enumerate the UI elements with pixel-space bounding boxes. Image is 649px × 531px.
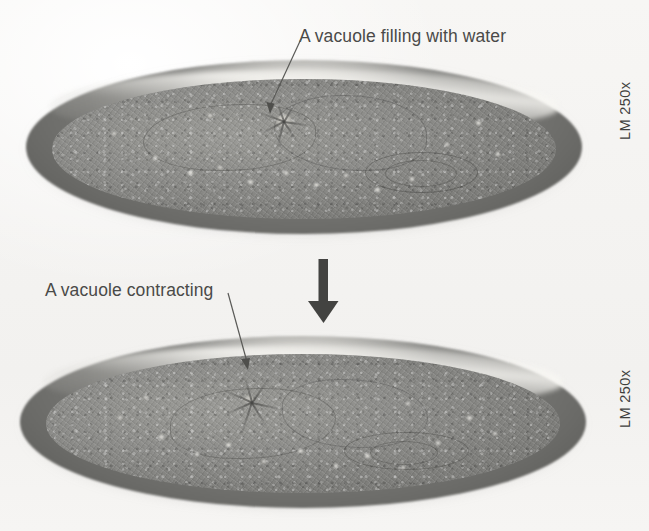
annotation-vacuole-filling: A vacuole filling with water xyxy=(299,26,506,47)
cytoplasm-speck xyxy=(153,156,157,160)
cytoplasm-speck xyxy=(410,177,414,181)
magnification-label-bottom: LM 250x xyxy=(617,370,633,428)
magnification-label-top: LM 250x xyxy=(617,82,633,140)
leader-line-bottom xyxy=(222,290,262,376)
cell-cytoplasm xyxy=(46,354,559,493)
organelle-outline xyxy=(370,441,439,465)
cytoplasm-speck xyxy=(262,460,266,463)
sequence-arrow-icon xyxy=(300,258,348,326)
cytoplasm-speck xyxy=(334,464,338,468)
figure-container: A vacuole filling with water LM 250x xyxy=(0,0,649,531)
cytoplasm-speck xyxy=(476,121,481,125)
cytoplasm-speck xyxy=(406,402,410,405)
cytoplasm-speck xyxy=(375,188,380,192)
cytoplasm-speck xyxy=(218,166,222,169)
cytoplasm-speck xyxy=(195,452,199,456)
cytoplasm-speck xyxy=(496,152,500,156)
cytoplasm-speck xyxy=(467,416,472,420)
cropped-header-strip xyxy=(0,0,649,12)
cytoplasm-speck xyxy=(144,396,148,399)
cytoplasm-speck xyxy=(314,183,319,187)
cytoplasm-speck xyxy=(298,449,303,453)
bottom-micrograph-panel xyxy=(8,328,598,516)
leader-line-top xyxy=(255,36,315,118)
cytoplasm-speck xyxy=(401,466,405,469)
cytoplasm-speck xyxy=(208,114,212,117)
annotation-vacuole-contracting: A vacuole contracting xyxy=(45,280,213,301)
cytoplasm-speck xyxy=(118,416,122,419)
